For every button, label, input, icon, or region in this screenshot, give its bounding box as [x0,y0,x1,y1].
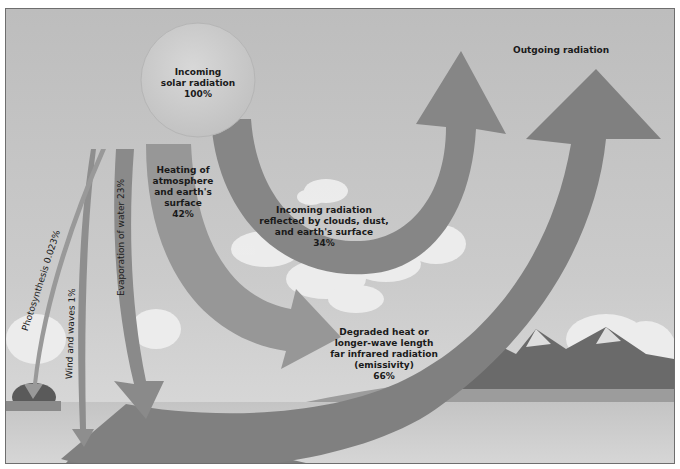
heating-value: 42% [152,209,214,220]
sun-value: 100% [148,89,248,100]
degraded-value: 66% [324,371,444,382]
reflected-value: 34% [254,238,394,249]
reflected-line2: reflected by clouds, dust, [254,216,394,227]
heating-label: Heating of atmosphere and earth's surfac… [152,165,214,220]
sun-line1: Incoming [148,67,248,78]
heating-line2: atmosphere [152,176,214,187]
sun-line2: solar radiation [148,78,248,89]
diagram-frame: Incoming solar radiation 100% Outgoing r… [5,8,675,464]
heating-line1: Heating of [152,165,214,176]
degraded-label: Degraded heat or longer-wave length far … [324,327,444,382]
reflected-line3: and earth's surface [254,227,394,238]
degraded-line3: far infrared radiation [324,349,444,360]
outgoing-label: Outgoing radiation [513,45,609,56]
degraded-line2: longer-wave length [324,338,444,349]
sun-label: Incoming solar radiation 100% [148,67,248,100]
reflected-line1: Incoming radiation [254,205,394,216]
degraded-line1: Degraded heat or [324,327,444,338]
reflected-label: Incoming radiation reflected by clouds, … [254,205,394,249]
heating-line4: surface [152,198,214,209]
degraded-line4: (emissivity) [324,360,444,371]
evaporation-label: Evaporation of water 23% [116,179,126,296]
heating-line3: and earth's [152,187,214,198]
left-shore [6,401,61,411]
